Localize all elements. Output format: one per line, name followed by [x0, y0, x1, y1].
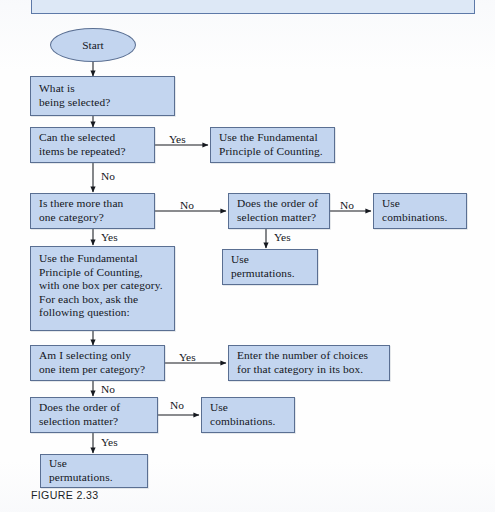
- edge-label-morecat-yes: Yes: [101, 231, 118, 243]
- node-perm1-label: Use permutations.: [231, 253, 313, 280]
- node-does-order-matter-2[interactable]: Does the order of selection matter?: [30, 397, 158, 433]
- edge-label-oneitem-yes: Yes: [179, 351, 196, 363]
- node-use-permutations-1[interactable]: Use permutations.: [222, 249, 318, 285]
- edge-label-order1-no: No: [340, 199, 354, 211]
- node-oneitem-label: Am I selecting only one item per categor…: [39, 349, 160, 376]
- node-can-items-be-repeated[interactable]: Can the selected items be repeated?: [30, 127, 155, 163]
- edge-label-order2-no: No: [170, 399, 184, 411]
- edge-label-oneitem-no: No: [101, 383, 115, 395]
- node-repeat-label: Can the selected items be repeated?: [39, 131, 150, 158]
- node-perm2-label: Use permutations.: [49, 457, 143, 484]
- edge-label-repeat-no: No: [101, 170, 115, 182]
- figure-page: Use the FPC. --> Is there more than one …: [0, 0, 495, 512]
- edge-label-order2-yes: Yes: [101, 436, 118, 448]
- node-morecat-label: Is there more than one category?: [39, 197, 150, 224]
- node-use-fundamental-principle-counting-1[interactable]: Use the Fundamental Principle of Countin…: [210, 127, 335, 163]
- node-what-is-being-selected[interactable]: What is being selected?: [30, 76, 175, 116]
- node-use-combinations-2[interactable]: Use combinations.: [201, 397, 295, 433]
- node-start-label: Start: [51, 39, 135, 51]
- node-use-permutations-2[interactable]: Use permutations.: [40, 454, 148, 488]
- edge-label-repeat-yes: Yes: [169, 133, 186, 145]
- node-what-label: What is being selected?: [39, 82, 170, 109]
- node-comb1-label: Use combinations.: [382, 197, 462, 224]
- node-fpc1-label: Use the Fundamental Principle of Countin…: [219, 131, 330, 158]
- node-enter-number-of-choices[interactable]: Enter the number of choices for that cat…: [228, 345, 390, 381]
- node-use-fundamental-principle-counting-2[interactable]: Use the Fundamental Principle of Countin…: [30, 246, 175, 331]
- node-is-there-more-than-one-category[interactable]: Is there more than one category?: [30, 193, 155, 229]
- edge-label-morecat-no: No: [180, 199, 194, 211]
- edge-label-order1-yes: Yes: [274, 231, 291, 243]
- node-fpc2-label: Use the Fundamental Principle of Countin…: [39, 252, 170, 320]
- node-enter-label: Enter the number of choices for that cat…: [237, 349, 385, 376]
- node-order2-label: Does the order of selection matter?: [39, 401, 153, 428]
- figure-caption: FIGURE 2.33: [31, 489, 98, 501]
- node-use-combinations-1[interactable]: Use combinations.: [373, 193, 467, 229]
- node-comb2-label: Use combinations.: [210, 401, 290, 428]
- node-order1-label: Does the order of selection matter?: [237, 197, 325, 224]
- node-am-i-selecting-one-item-per-category[interactable]: Am I selecting only one item per categor…: [30, 345, 165, 381]
- node-start[interactable]: Start: [50, 28, 136, 62]
- node-does-order-matter-1[interactable]: Does the order of selection matter?: [228, 193, 330, 229]
